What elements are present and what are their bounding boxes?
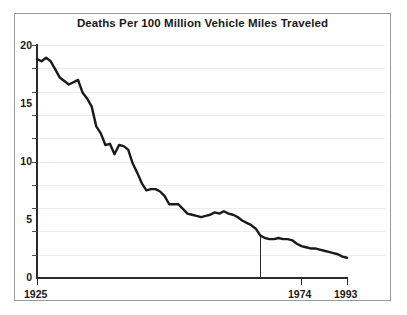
data-series-line (37, 58, 347, 258)
chart-figure: Deaths Per 100 Million Vehicle Miles Tra… (0, 0, 407, 315)
series-svg (0, 0, 407, 315)
